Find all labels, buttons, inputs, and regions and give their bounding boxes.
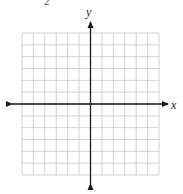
cropped-text-fragment: 2 (44, 0, 50, 7)
y-axis-label: y (85, 5, 92, 19)
coordinate-plane: 2 x y (0, 0, 183, 194)
x-axis-label: x (170, 98, 177, 112)
